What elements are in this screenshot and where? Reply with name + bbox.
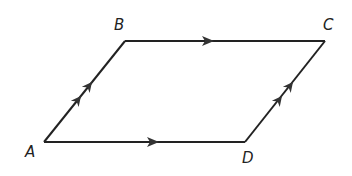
- vertex-label-d: D: [242, 149, 254, 167]
- vertex-label-b: B: [114, 16, 124, 34]
- parallelogram-diagram: A B C D: [0, 0, 352, 176]
- edge-ab: [44, 41, 125, 142]
- vertex-label-c: C: [323, 16, 334, 34]
- edge-dc: [245, 41, 325, 142]
- vertex-label-a: A: [24, 143, 35, 161]
